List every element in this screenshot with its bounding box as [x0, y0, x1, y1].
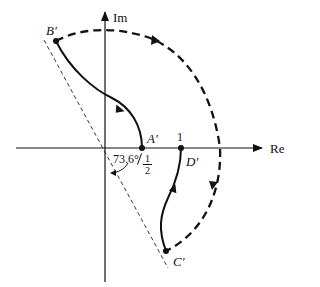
point-one	[178, 145, 184, 151]
half-fraction-bar	[143, 164, 152, 165]
angle-label: 73.6°	[113, 153, 139, 165]
angle-arrow-icon	[110, 170, 116, 176]
real-axis-label: Re	[270, 142, 284, 155]
point-b	[53, 38, 59, 44]
point-c-label: C′	[173, 255, 185, 268]
curve-c-to-d	[161, 148, 181, 251]
dashed-arc	[56, 30, 220, 251]
tick-one-label: 1	[177, 131, 183, 143]
half-numerator: 1	[145, 154, 150, 164]
imag-axis-label: Im	[113, 11, 127, 24]
direction-arrow-icon	[151, 35, 160, 45]
point-a	[139, 145, 145, 151]
point-c	[163, 248, 169, 254]
half-denominator: 2	[145, 166, 150, 176]
point-a-label: A′	[147, 132, 158, 145]
curve-b-to-a	[56, 41, 142, 148]
point-b-label: B′	[46, 24, 57, 37]
point-d-label: D′	[186, 155, 198, 168]
